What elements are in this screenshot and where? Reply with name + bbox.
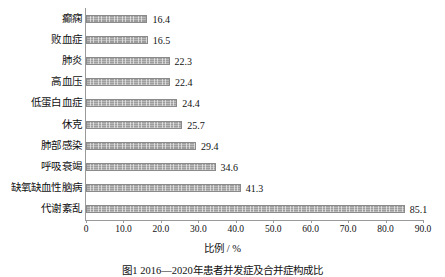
bar xyxy=(86,78,170,86)
bar-row: 呼吸衰竭34.6 xyxy=(0,156,445,177)
bar-row: 肺炎22.3 xyxy=(0,50,445,71)
x-axis-tick-mark xyxy=(348,220,349,223)
bar-value-label: 24.4 xyxy=(177,98,200,109)
bar-row: 缺氧缺血性脑病41.3 xyxy=(0,178,445,199)
bar xyxy=(86,142,196,150)
bar-row: 肺部感染29.4 xyxy=(0,135,445,156)
bar xyxy=(86,36,148,44)
x-axis-tick-mark xyxy=(423,220,424,223)
x-axis-tick-mark xyxy=(198,220,199,223)
bar-wrapper xyxy=(86,163,216,171)
bar-wrapper xyxy=(86,36,148,44)
bar-rows-container: 癫痫16.4败血症16.5肺炎22.3高血压22.4低蛋白血症24.4休克25.… xyxy=(0,8,445,220)
bar-row: 休克25.7 xyxy=(0,114,445,135)
x-axis-tick-mark xyxy=(386,220,387,223)
bar-value-label: 16.5 xyxy=(148,34,171,45)
bar-row: 低蛋白血症24.4 xyxy=(0,93,445,114)
x-axis-tick-label: 90.0 xyxy=(415,224,432,235)
x-axis-tick-label: 80.0 xyxy=(377,224,394,235)
bar-value-label: 22.4 xyxy=(170,77,193,88)
bar-value-label: 22.3 xyxy=(170,55,193,66)
x-axis-tick-label: 30.0 xyxy=(190,224,207,235)
category-label: 低蛋白血症 xyxy=(31,97,82,109)
bar-value-label: 41.3 xyxy=(241,183,264,194)
x-axis-tick-label: 40.0 xyxy=(227,224,244,235)
category-label: 肺炎 xyxy=(62,55,82,67)
bar-value-label: 16.4 xyxy=(147,13,170,24)
bar xyxy=(86,205,405,213)
x-axis-ticks: 010.020.030.040.050.060.070.080.090.0 xyxy=(0,220,445,242)
category-label: 代谢紊乱 xyxy=(41,203,82,215)
x-axis-tick-mark xyxy=(236,220,237,223)
x-axis-tick-mark xyxy=(161,220,162,223)
bar-row: 败血症16.5 xyxy=(0,29,445,50)
bar xyxy=(86,163,216,171)
bar-wrapper xyxy=(86,121,182,129)
bar-wrapper xyxy=(86,205,405,213)
figure-caption: 图1 2016—2020年患者并发症及合并症构成比 xyxy=(0,265,445,277)
category-label: 癫痫 xyxy=(62,13,82,25)
bar-wrapper xyxy=(86,15,147,23)
bar-wrapper xyxy=(86,57,170,65)
x-axis-tick-label: 50.0 xyxy=(265,224,282,235)
x-axis-tick-mark xyxy=(311,220,312,223)
category-label: 肺部感染 xyxy=(41,140,82,152)
bar-row: 癫痫16.4 xyxy=(0,8,445,29)
bar-wrapper xyxy=(86,184,241,192)
bar-row: 代谢紊乱85.1 xyxy=(0,199,445,220)
category-label: 缺氧缺血性脑病 xyxy=(11,182,82,194)
bar-value-label: 85.1 xyxy=(405,204,428,215)
bar-wrapper xyxy=(86,78,170,86)
bar xyxy=(86,57,170,65)
category-label: 休克 xyxy=(62,119,82,131)
category-label: 高血压 xyxy=(51,76,82,88)
bar-row: 高血压22.4 xyxy=(0,72,445,93)
bar xyxy=(86,184,241,192)
category-label: 败血症 xyxy=(51,34,82,46)
category-label: 呼吸衰竭 xyxy=(41,161,82,173)
x-axis-tick-label: 0 xyxy=(84,224,89,235)
x-axis-title: 比例 / % xyxy=(0,243,445,255)
x-axis-tick-mark xyxy=(123,220,124,223)
x-axis-tick-label: 70.0 xyxy=(340,224,357,235)
bar-wrapper xyxy=(86,99,177,107)
bar xyxy=(86,99,177,107)
x-axis-tick-label: 10.0 xyxy=(115,224,132,235)
x-axis-tick-label: 20.0 xyxy=(153,224,170,235)
bar xyxy=(86,121,182,129)
x-axis-tick-mark xyxy=(86,220,87,223)
x-axis-tick-label: 60.0 xyxy=(302,224,319,235)
bar-value-label: 25.7 xyxy=(182,119,205,130)
x-axis-tick-mark xyxy=(273,220,274,223)
bar-wrapper xyxy=(86,142,196,150)
bar xyxy=(86,15,147,23)
bar-value-label: 34.6 xyxy=(216,161,239,172)
bar-value-label: 29.4 xyxy=(196,140,219,151)
